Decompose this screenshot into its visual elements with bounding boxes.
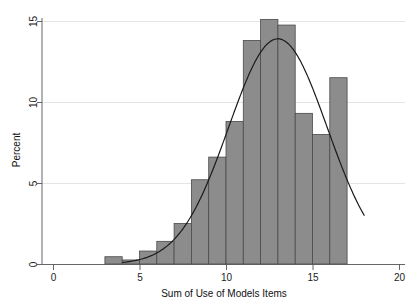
y-tick-label: 5 — [28, 180, 39, 186]
histogram-bar — [191, 180, 208, 264]
x-tick-label: 5 — [137, 272, 143, 283]
histogram-bar — [313, 134, 330, 264]
x-tick-label: 10 — [221, 272, 233, 283]
x-tick-label: 0 — [51, 272, 57, 283]
y-tick-label: 0 — [28, 261, 39, 267]
histogram-bar — [226, 121, 243, 264]
y-axis-title: Percent — [11, 133, 22, 168]
x-axis-title: Sum of Use of Models Items — [161, 288, 287, 299]
histogram-bar — [261, 19, 278, 264]
y-tick-label: 15 — [28, 16, 39, 28]
x-tick-label: 15 — [307, 272, 319, 283]
histogram-chart: 051015 05101520 Percent Sum of Use of Mo… — [0, 0, 413, 303]
histogram-bar — [330, 78, 347, 264]
histogram-bar — [278, 25, 295, 264]
histogram-bar — [105, 257, 122, 264]
y-tick-label: 10 — [28, 97, 39, 109]
chart-canvas: 051015 05101520 Percent Sum of Use of Mo… — [0, 0, 413, 303]
histogram-bar — [157, 241, 174, 264]
histogram-bar — [295, 113, 312, 264]
x-tick-label: 20 — [394, 272, 406, 283]
histogram-bar — [243, 40, 260, 264]
